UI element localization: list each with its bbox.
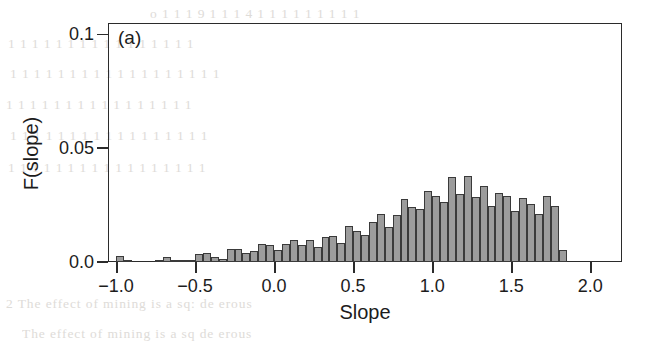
x-tick-label: −0.5 xyxy=(177,276,213,297)
histogram-bar xyxy=(179,260,187,262)
histogram-bar xyxy=(195,254,203,262)
histogram-bars xyxy=(108,23,622,262)
histogram-bar xyxy=(155,260,163,262)
x-tick-mark xyxy=(590,262,592,273)
histogram-bar xyxy=(495,193,503,262)
histogram-bar xyxy=(424,191,432,262)
x-axis-label: Slope xyxy=(108,301,622,324)
histogram-bar xyxy=(456,194,464,262)
x-tick-label: 0.5 xyxy=(341,276,366,297)
x-tick-label: 2.0 xyxy=(578,276,603,297)
x-tick-label: 1.5 xyxy=(499,276,524,297)
histogram-bar xyxy=(322,237,330,262)
histogram-bar xyxy=(393,215,401,262)
histogram-bar xyxy=(519,198,527,262)
histogram-bar xyxy=(353,231,361,262)
y-tick-label: 0.05 xyxy=(59,138,94,159)
histogram-bar xyxy=(551,206,559,262)
histogram-figure: F(slope) 0.00.050.1 (a) −1.0−0.50.00.51.… xyxy=(0,0,646,350)
histogram-bar xyxy=(211,257,219,262)
histogram-bar xyxy=(401,199,409,262)
y-axis-label: F(slope) xyxy=(20,74,43,234)
histogram-bar xyxy=(464,176,472,262)
histogram-bar xyxy=(337,243,345,262)
histogram-bar xyxy=(385,227,393,262)
histogram-bar xyxy=(274,250,282,262)
histogram-bar xyxy=(448,177,456,262)
histogram-bar xyxy=(488,206,496,262)
histogram-bar xyxy=(361,235,369,262)
histogram-bar xyxy=(559,250,567,262)
histogram-bar xyxy=(219,259,227,262)
y-tick-mark xyxy=(97,34,108,36)
histogram-bar xyxy=(235,249,243,262)
histogram-bar xyxy=(124,260,132,262)
histogram-bar xyxy=(377,214,385,262)
histogram-bar xyxy=(440,202,448,262)
histogram-bar xyxy=(472,197,480,262)
histogram-bar xyxy=(369,222,377,262)
y-tick-mark xyxy=(97,261,108,263)
histogram-bar xyxy=(416,209,424,262)
histogram-bar xyxy=(298,245,306,262)
histogram-bar xyxy=(242,253,250,262)
x-tick-label: 1.0 xyxy=(420,276,445,297)
histogram-bar xyxy=(543,196,551,262)
histogram-bar xyxy=(480,186,488,262)
histogram-bar xyxy=(345,226,353,262)
x-tick-mark xyxy=(511,262,513,273)
histogram-bar xyxy=(187,260,195,262)
histogram-bar xyxy=(250,251,258,262)
histogram-bar xyxy=(511,211,519,262)
histogram-bar xyxy=(258,244,266,262)
x-tick-label: 0.0 xyxy=(262,276,287,297)
histogram-bar xyxy=(535,214,543,262)
histogram-bar xyxy=(266,245,274,262)
x-tick-label: −1.0 xyxy=(98,276,134,297)
y-tick-mark xyxy=(97,147,108,149)
x-tick-mark xyxy=(195,262,197,273)
histogram-bar xyxy=(432,196,440,262)
histogram-bar xyxy=(203,253,211,262)
histogram-bar xyxy=(503,196,511,262)
histogram-bar xyxy=(314,247,322,262)
x-tick-mark xyxy=(274,262,276,273)
histogram-bar xyxy=(408,207,416,262)
y-tick-label: 0.1 xyxy=(69,24,94,45)
histogram-bar xyxy=(527,204,535,262)
histogram-bar xyxy=(290,240,298,262)
histogram-bar xyxy=(329,236,337,262)
histogram-bar xyxy=(306,240,314,262)
x-tick-mark xyxy=(432,262,434,273)
x-tick-mark xyxy=(353,262,355,273)
histogram-bar xyxy=(163,257,171,262)
histogram-bar xyxy=(227,249,235,262)
y-tick-label: 0.0 xyxy=(69,252,94,273)
histogram-bar xyxy=(282,244,290,262)
histogram-bar xyxy=(171,260,179,262)
x-tick-mark xyxy=(116,262,118,273)
